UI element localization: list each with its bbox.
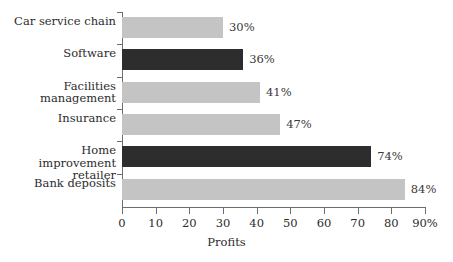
bar (122, 49, 243, 70)
bar (122, 146, 371, 167)
category-label: Bank deposits (4, 177, 116, 190)
bar-value-label: 36% (249, 52, 275, 66)
bar (122, 17, 223, 38)
bar (122, 82, 260, 103)
x-axis-tick (358, 208, 359, 214)
x-axis-tick (122, 208, 123, 214)
bar-value-label: 84% (411, 182, 437, 196)
bar (122, 179, 405, 200)
x-axis-tick (391, 208, 392, 214)
x-axis-line (122, 207, 426, 208)
bar-value-label: 74% (377, 149, 403, 163)
bar-value-label: 41% (266, 85, 292, 99)
y-axis-tick (117, 77, 122, 78)
bar-value-label: 47% (286, 117, 312, 131)
x-axis-tick (223, 208, 224, 214)
x-axis-tick (290, 208, 291, 214)
category-label: Facilities management (4, 80, 116, 105)
x-axis-tick (324, 208, 325, 214)
x-axis-tick (189, 208, 190, 214)
category-label: Insurance (4, 112, 116, 125)
y-axis-tick (117, 141, 122, 142)
x-axis-tick-label: 90% (405, 216, 445, 230)
category-label: Software (4, 47, 116, 60)
x-axis-tick (425, 208, 426, 214)
category-label: Car service chain (4, 15, 116, 28)
y-axis-tick (117, 44, 122, 45)
bar-chart: 30%36%41%47%74%84% Car service chainSoft… (0, 0, 453, 262)
bar (122, 114, 280, 135)
y-axis-tick (117, 109, 122, 110)
y-axis-tick (117, 12, 122, 13)
x-axis-title: Profits (0, 235, 453, 249)
y-axis-tick (117, 174, 122, 175)
x-axis-tick (257, 208, 258, 214)
bar-value-label: 30% (229, 20, 255, 34)
x-axis-tick (156, 208, 157, 214)
